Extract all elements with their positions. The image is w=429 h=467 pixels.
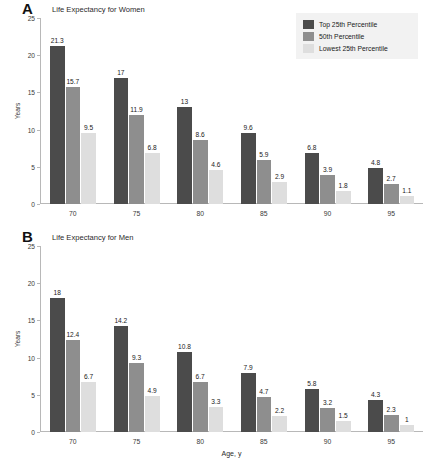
panel-b-y-tick-mark [37,283,40,284]
panel-b-x-tick-label: 75 [133,438,141,445]
legend-item-lowest-25th: Lowest 25th Percentile [303,42,412,54]
panel-b-x-tick-label: 80 [196,438,204,445]
bar-slot: 1 [400,246,415,432]
panel-a-group-70: 21.315.79.570 [41,18,105,204]
bar-value-label: 11.9 [130,106,142,114]
bar-value-label: 1.8 [339,182,348,190]
bar-value-label: 5.8 [307,380,316,388]
bar-value-label: 6.7 [84,373,93,381]
bar: 21.3 [50,46,65,204]
bar-value-label: 1 [405,416,409,424]
panel-b-x-tick-label: 95 [387,438,395,445]
panel-a-x-tick-label: 80 [196,210,204,217]
bar-value-label: 21.3 [51,37,64,45]
bar-slot: 17 [114,18,129,204]
panel-b: B Life Expectancy for Men Years 05101520… [0,228,429,467]
bar-value-label: 9.3 [132,354,141,362]
bar-cluster: 9.65.92.9 [241,18,287,204]
life-expectancy-figure: A Life Expectancy for Women Years 051015… [0,0,429,467]
panel-b-group-80: 10.86.73.380 [168,246,232,432]
bar-value-label: 7.9 [244,364,253,372]
panel-a-group-75: 1711.96.875 [105,18,169,204]
panel-b-bar-groups: 1812.46.77014.29.34.97510.86.73.3807.94.… [41,246,423,432]
panel-b-group-95: 4.32.3195 [359,246,423,432]
panel-b-y-tick-mark [37,432,40,433]
legend-item-50th: 50th Percentile [303,30,412,42]
bar-value-label: 14.2 [114,317,127,325]
bar-value-label: 13 [181,98,188,106]
bar-slot: 13 [177,18,192,204]
bar: 4.3 [368,400,383,432]
bar-cluster: 5.83.21.5 [305,246,351,432]
panel-a-x-tick-label: 75 [133,210,141,217]
bar-value-label: 15.7 [66,78,79,86]
bar-slot: 4.7 [257,246,272,432]
bar-slot: 3.3 [209,246,224,432]
bar-slot: 4.6 [209,18,224,204]
panel-a-y-tick-label: 25 [28,15,35,22]
bar-value-label: 4.3 [371,391,380,399]
bar: 4.8 [368,168,383,204]
bar-slot: 6.7 [193,246,208,432]
bar-slot: 9.3 [129,246,144,432]
bar-value-label: 3.3 [211,398,220,406]
legend-label-50th: 50th Percentile [319,33,364,40]
bar-cluster: 1812.46.7 [50,246,96,432]
bar: 3.3 [209,407,224,432]
bar-value-label: 2.9 [275,173,284,181]
panel-a-y-tick-mark [37,18,40,19]
bar-value-label: 3.9 [323,166,332,174]
bar-slot: 14.2 [114,246,129,432]
panel-b-x-tick-label: 85 [260,438,268,445]
bar: 13 [177,107,192,204]
bar: 5.8 [305,389,320,432]
bar: 2.3 [384,415,399,432]
panel-b-y-tick-mark [37,246,40,247]
bar-slot: 8.6 [193,18,208,204]
panel-b-x-tick-label: 90 [324,438,332,445]
bar: 11.9 [129,115,144,204]
bar: 4.9 [145,396,160,432]
panel-a-y-tick-label: 0 [31,201,35,208]
bar-cluster: 7.94.72.2 [241,246,287,432]
panel-b-y-axis-title: Years [14,331,21,348]
bar-cluster: 1711.96.8 [114,18,160,204]
panel-b-x-tick-label: 70 [69,438,77,445]
panel-a-y-tick-label: 15 [28,89,35,96]
bar: 9.5 [81,133,96,204]
panel-b-y-tick-label: 15 [28,317,35,324]
panel-a-y-tick-mark [37,92,40,93]
bar: 2.2 [272,416,287,432]
panel-a-x-tick-label: 95 [387,210,395,217]
bar-value-label: 4.7 [259,388,268,396]
chart-legend: Top 25th Percentile 50th Percentile Lowe… [296,13,418,59]
bar-slot: 5.8 [305,246,320,432]
bar-value-label: 4.8 [371,159,380,167]
bar-slot: 4.3 [368,246,383,432]
panel-a-title: Life Expectancy for Women [52,5,145,14]
bar: 8.6 [193,140,208,204]
bar: 1.1 [400,196,415,204]
bar-value-label: 6.8 [307,144,316,152]
bar-value-label: 6.8 [148,144,157,152]
bar-slot: 9.5 [81,18,96,204]
panel-b-y-tick-label: 0 [31,429,35,436]
bar: 9.3 [129,363,144,432]
panel-b-group-70: 1812.46.770 [41,246,105,432]
panel-b-group-75: 14.29.34.975 [105,246,169,432]
bar: 6.7 [193,382,208,432]
bar-value-label: 12.4 [66,331,79,339]
bar: 9.6 [241,133,256,204]
panel-b-title: Life Expectancy for Men [52,233,133,242]
bar-slot: 7.9 [241,246,256,432]
bar: 2.9 [272,182,287,204]
panel-b-y-tick-label: 25 [28,243,35,250]
panel-b-y-tick-label: 5 [31,391,35,398]
panel-b-y-tick-mark [37,320,40,321]
legend-swatch-50th [303,32,314,41]
panel-a-x-tick-label: 70 [69,210,77,217]
bar-slot: 15.7 [66,18,81,204]
bar-value-label: 9.5 [84,124,93,132]
bar: 14.2 [114,326,129,432]
bar: 1 [400,425,415,432]
